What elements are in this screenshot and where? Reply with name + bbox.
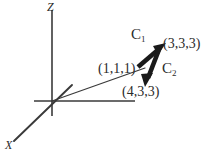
- z-axis-label: Z: [47, 1, 54, 13]
- vector-c1-base-text: C: [131, 26, 141, 42]
- vector-c2-base-text: C: [162, 60, 172, 76]
- vector-label-c1: C1: [131, 27, 146, 42]
- vector-label-c2: C2: [162, 61, 177, 76]
- x-axis-line: [14, 85, 72, 141]
- x-axis-label: X: [5, 139, 12, 151]
- vector-diagram-figure: Z X (1,1,1) (3,3,3) (4,3,3) C1 C2: [0, 0, 211, 157]
- diagram-canvas: [0, 0, 211, 157]
- point-label-4-3-3: (4,3,3): [122, 85, 159, 99]
- point-label-3-3-3: (3,3,3): [163, 37, 200, 51]
- vector-c2-subscript: 2: [172, 68, 177, 78]
- vector-c1-subscript: 1: [141, 34, 146, 44]
- vector-c2-arrow: [141, 47, 160, 87]
- point-label-1-1-1: (1,1,1): [98, 62, 135, 76]
